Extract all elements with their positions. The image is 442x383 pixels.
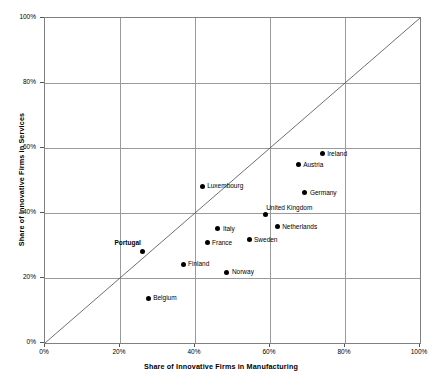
data-point[interactable]	[181, 262, 186, 267]
data-point-label: Sweden	[254, 236, 278, 244]
data-point-label: Italy	[223, 225, 235, 233]
data-point-label: Finland	[188, 260, 209, 268]
data-point-label: Netherlands	[282, 223, 317, 231]
data-point-label: France	[212, 239, 232, 247]
y-axis-tick-label: 0%	[0, 338, 36, 346]
x-axis-tick-label: 40%	[174, 348, 214, 356]
data-point-label: Portugal	[115, 239, 141, 247]
scatter-chart: Share of Innovative Firms in Services Sh…	[0, 0, 442, 383]
data-point[interactable]	[205, 240, 210, 245]
x-axis-tick-label: 20%	[99, 348, 139, 356]
diagonal-reference-line	[45, 18, 420, 343]
x-axis-tick-label: 80%	[324, 348, 364, 356]
y-axis-tick-label: 100%	[0, 13, 36, 21]
x-axis-tick-label: 100%	[399, 348, 439, 356]
data-point-label: Belgium	[153, 294, 176, 302]
data-point-label: Ireland	[327, 150, 347, 158]
data-point[interactable]	[200, 184, 205, 189]
y-axis-tick-label: 80%	[0, 78, 36, 86]
data-point[interactable]	[146, 296, 151, 301]
data-point-label: Germany	[310, 189, 337, 197]
plot-area: IrelandAustriaGermanyUnited KingdomNethe…	[44, 17, 421, 344]
data-point-label: United Kingdom	[266, 204, 312, 212]
y-axis-tick-label: 40%	[0, 208, 36, 216]
y-axis-tick-label: 20%	[0, 273, 36, 281]
x-axis-tick-label: 60%	[249, 348, 289, 356]
y-axis-tick-label: 60%	[0, 143, 36, 151]
y-axis-title: Share of Innovative Firms in Services	[17, 70, 26, 290]
x-axis-title: Share of Innovative Firms in Manufacturi…	[0, 362, 442, 371]
data-point-label: Norway	[232, 268, 254, 276]
data-point-label: Austria	[303, 161, 323, 169]
data-point-label: Luxembourg	[207, 182, 243, 190]
x-axis-tick-label: 0%	[24, 348, 64, 356]
data-point[interactable]	[140, 249, 145, 254]
